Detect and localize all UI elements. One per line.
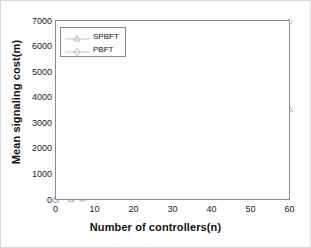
x-tick-label: 40 bbox=[206, 205, 216, 214]
chart-figure: 01000200030004000500060007000 0102030405… bbox=[0, 0, 311, 248]
x-tick-label: 60 bbox=[284, 205, 294, 214]
legend-marker-triangle-icon bbox=[64, 31, 90, 43]
x-axis-label: Number of controllers(n) bbox=[0, 221, 311, 233]
chart-legend: SPBFT PBFT bbox=[60, 27, 126, 57]
x-tick-label: 30 bbox=[167, 205, 177, 214]
y-axis-label-wrapper: Mean signaling cost(m) bbox=[8, 7, 24, 197]
legend-item-pbft: PBFT bbox=[64, 43, 122, 56]
x-tick-label: 0 bbox=[53, 205, 58, 214]
x-tick-label: 20 bbox=[128, 205, 138, 214]
legend-marker-diamond-icon bbox=[64, 44, 90, 56]
x-tick-label: 10 bbox=[89, 205, 99, 214]
x-tick-label: 50 bbox=[245, 205, 255, 214]
y-axis-label: Mean signaling cost(m) bbox=[10, 40, 22, 164]
legend-label-spbft: SPBFT bbox=[90, 33, 119, 41]
x-axis-tick-labels: 0102030405060 bbox=[0, 205, 311, 219]
legend-item-spbft: SPBFT bbox=[64, 30, 122, 43]
legend-label-pbft: PBFT bbox=[90, 46, 113, 54]
